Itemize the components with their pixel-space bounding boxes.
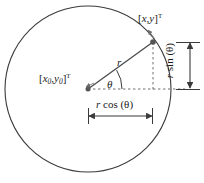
point-on-circle-label: [x,y]T	[138, 13, 162, 24]
point-label-transpose: T	[158, 12, 162, 19]
circle-point-marker	[150, 39, 156, 45]
center-label-transpose: T	[66, 72, 70, 79]
vertical-leg-theta: θ	[163, 47, 175, 52]
vertical-leg-function: sin (	[163, 52, 175, 74]
horizontal-leg-close-paren: )	[129, 98, 133, 110]
point-label-leader-line	[148, 30, 155, 39]
figure-canvas: [x,y]T [x0,y0]T r θ r cos (θ) r sin (θ)	[0, 0, 204, 183]
angle-label: θ	[107, 79, 112, 90]
horizontal-leg-function: cos (	[100, 98, 124, 110]
vertical-leg-close-paren: )	[163, 43, 175, 47]
vertical-leg-label: r sin (θ)	[164, 8, 175, 43]
radius-label: r	[117, 57, 121, 68]
horizontal-leg-label: r cos (θ)	[96, 99, 133, 110]
angle-arc	[117, 70, 122, 89]
vertical-leg-r: r	[163, 74, 175, 78]
circle-center-label: [x0,y0]T	[39, 73, 71, 85]
vertical-leg-label-inner: r sin (θ)	[164, 43, 175, 78]
